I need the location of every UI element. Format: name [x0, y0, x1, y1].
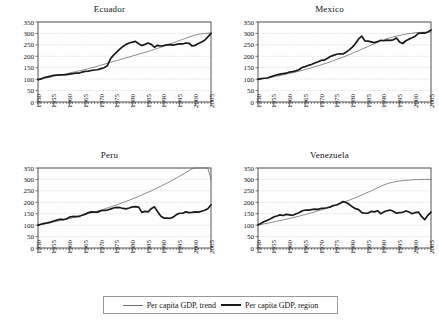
svg-text:1950: 1950: [35, 94, 43, 109]
svg-text:50: 50: [247, 87, 255, 95]
svg-text:350: 350: [244, 19, 255, 27]
svg-text:50: 50: [247, 233, 255, 241]
svg-text:2000: 2000: [192, 94, 200, 109]
legend-entry-region: Per capita GDP, region: [221, 301, 318, 310]
plot-mexico: 0501001502002503003501950195519601965197…: [220, 16, 439, 149]
legend-label-region: Per capita GDP, region: [245, 301, 318, 310]
svg-text:350: 350: [24, 165, 35, 173]
svg-text:1990: 1990: [380, 240, 388, 255]
panel-peru: Peru 05010015020025030035019501955196019…: [0, 150, 219, 295]
svg-text:200: 200: [244, 199, 255, 207]
svg-text:1960: 1960: [286, 240, 294, 255]
legend-swatch-region-icon: [221, 304, 241, 306]
svg-text:1990: 1990: [160, 240, 168, 255]
svg-text:200: 200: [244, 53, 255, 61]
svg-text:250: 250: [244, 41, 255, 49]
svg-text:2000: 2000: [412, 94, 420, 109]
svg-text:1965: 1965: [82, 94, 90, 109]
svg-text:1975: 1975: [113, 94, 121, 109]
svg-text:1970: 1970: [98, 94, 106, 109]
figure-root: Ecuador 05010015020025030035019501955196…: [0, 0, 439, 326]
chart-legend: Per capita GDP, trend Per capita GDP, re…: [103, 296, 338, 314]
svg-text:1980: 1980: [129, 94, 137, 109]
svg-text:100: 100: [244, 76, 255, 84]
svg-text:1985: 1985: [365, 240, 373, 255]
svg-text:300: 300: [244, 176, 255, 184]
svg-text:1970: 1970: [318, 94, 326, 109]
svg-text:50: 50: [27, 87, 35, 95]
svg-text:250: 250: [24, 187, 35, 195]
plot-svg-venezuela: 0501001502002503003501950195519601965197…: [220, 162, 439, 295]
svg-text:2000: 2000: [412, 240, 420, 255]
svg-text:1955: 1955: [270, 240, 278, 255]
svg-text:1995: 1995: [176, 240, 184, 255]
svg-text:100: 100: [24, 76, 35, 84]
svg-text:1965: 1965: [302, 94, 310, 109]
svg-text:1950: 1950: [255, 94, 263, 109]
panel-ecuador: Ecuador 05010015020025030035019501955196…: [0, 4, 219, 149]
svg-text:2000: 2000: [192, 240, 200, 255]
svg-text:1980: 1980: [349, 94, 357, 109]
svg-text:1985: 1985: [365, 94, 373, 109]
svg-text:200: 200: [24, 53, 35, 61]
svg-text:1960: 1960: [66, 94, 74, 109]
plot-ecuador: 0501001502002503003501950195519601965197…: [0, 16, 219, 149]
svg-text:1970: 1970: [318, 240, 326, 255]
svg-text:1965: 1965: [302, 240, 310, 255]
svg-text:150: 150: [244, 210, 255, 218]
svg-text:300: 300: [244, 30, 255, 38]
svg-text:1950: 1950: [255, 240, 263, 255]
svg-text:150: 150: [24, 210, 35, 218]
svg-text:1995: 1995: [396, 240, 404, 255]
svg-text:1980: 1980: [349, 240, 357, 255]
svg-text:1960: 1960: [66, 240, 74, 255]
svg-text:1990: 1990: [380, 94, 388, 109]
svg-text:2005: 2005: [428, 94, 436, 109]
svg-text:1950: 1950: [35, 240, 43, 255]
plot-svg-peru: 0501001502002503003501950195519601965197…: [0, 162, 219, 295]
svg-text:1975: 1975: [333, 240, 341, 255]
svg-text:1975: 1975: [113, 240, 121, 255]
svg-text:1955: 1955: [50, 240, 58, 255]
svg-text:1995: 1995: [396, 94, 404, 109]
panel-title-venezuela: Venezuela: [220, 150, 439, 160]
panel-title-mexico: Mexico: [220, 4, 439, 14]
svg-text:1985: 1985: [145, 240, 153, 255]
plot-venezuela: 0501001502002503003501950195519601965197…: [220, 162, 439, 295]
svg-text:1980: 1980: [129, 240, 137, 255]
svg-text:2005: 2005: [208, 94, 216, 109]
svg-text:1955: 1955: [50, 94, 58, 109]
svg-text:150: 150: [244, 64, 255, 72]
svg-text:1985: 1985: [145, 94, 153, 109]
panel-title-ecuador: Ecuador: [0, 4, 219, 14]
panel-mexico: Mexico 050100150200250300350195019551960…: [220, 4, 439, 149]
svg-text:2005: 2005: [428, 240, 436, 255]
svg-text:100: 100: [244, 222, 255, 230]
plot-svg-mexico: 0501001502002503003501950195519601965197…: [220, 16, 439, 149]
svg-text:350: 350: [24, 19, 35, 27]
svg-text:1955: 1955: [270, 94, 278, 109]
svg-text:1960: 1960: [286, 94, 294, 109]
svg-text:100: 100: [24, 222, 35, 230]
plot-svg-ecuador: 0501001502002503003501950195519601965197…: [0, 16, 219, 149]
svg-text:1975: 1975: [333, 94, 341, 109]
svg-text:1970: 1970: [98, 240, 106, 255]
panel-venezuela: Venezuela 050100150200250300350195019551…: [220, 150, 439, 295]
svg-text:2005: 2005: [208, 240, 216, 255]
svg-text:250: 250: [24, 41, 35, 49]
svg-text:50: 50: [27, 233, 35, 241]
legend-label-trend: Per capita GDP, trend: [147, 301, 216, 310]
svg-text:1995: 1995: [176, 94, 184, 109]
svg-text:350: 350: [244, 165, 255, 173]
panel-title-peru: Peru: [0, 150, 219, 160]
svg-text:1990: 1990: [160, 94, 168, 109]
svg-text:300: 300: [24, 176, 35, 184]
svg-text:200: 200: [24, 199, 35, 207]
svg-text:150: 150: [24, 64, 35, 72]
svg-text:300: 300: [24, 30, 35, 38]
legend-entry-trend: Per capita GDP, trend: [123, 301, 216, 310]
legend-swatch-trend-icon: [123, 305, 143, 306]
svg-text:1965: 1965: [82, 240, 90, 255]
svg-text:250: 250: [244, 187, 255, 195]
plot-peru: 0501001502002503003501950195519601965197…: [0, 162, 219, 295]
